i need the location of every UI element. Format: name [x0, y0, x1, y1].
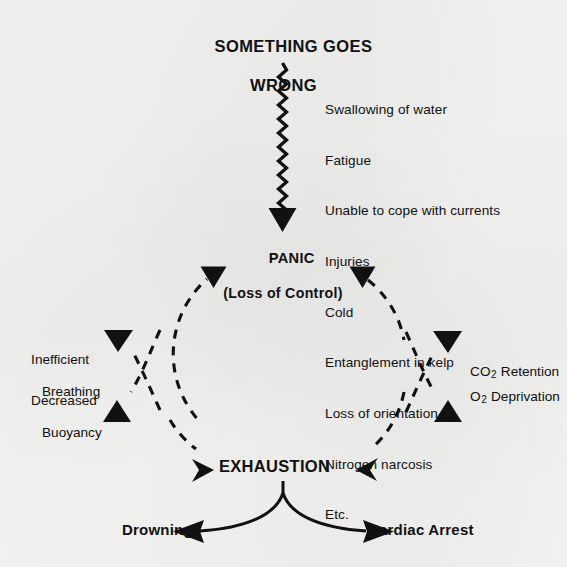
- cause-item: Nitrogen narcosis: [325, 457, 500, 476]
- effect-buoyancy-line-1: Decreased: [31, 393, 97, 408]
- effect-decreased-buoyancy: Decreased Buoyancy: [16, 377, 102, 473]
- cycle-arc-left-to-exhaustion: [170, 420, 214, 482]
- branch-left-buoyancy: [103, 330, 160, 422]
- o2-text: Deprivation: [491, 389, 560, 404]
- o2-subscript: 2: [481, 394, 488, 405]
- cause-item: Swallowing of water: [325, 102, 500, 121]
- cause-item: Unable to cope with currents: [325, 203, 500, 222]
- panic-node: PANIC (Loss of Control): [183, 233, 383, 336]
- panic-sublabel: (Loss of Control): [183, 285, 383, 302]
- exhaustion-node: EXHAUSTION: [219, 457, 330, 476]
- effect-breathing-line-1: Inefficient: [31, 352, 89, 367]
- panic-cycle-diagram: SOMETHING GOES WRONG Swallowing of water…: [0, 0, 567, 567]
- effect-buoyancy-line-2: Buoyancy: [16, 425, 102, 441]
- cause-item: Fatigue: [325, 153, 500, 172]
- branch-left-breathing: [104, 330, 160, 410]
- o2-molecule: O: [470, 389, 481, 404]
- effect-o2-deprivation: O2 Deprivation: [455, 373, 560, 422]
- outcome-cardiac-arrest: Cardiac Arrest: [368, 521, 474, 539]
- title-line-1: SOMETHING GOES: [215, 37, 373, 55]
- outcome-drowning: Drowning: [122, 521, 193, 539]
- panic-label: PANIC: [269, 250, 315, 266]
